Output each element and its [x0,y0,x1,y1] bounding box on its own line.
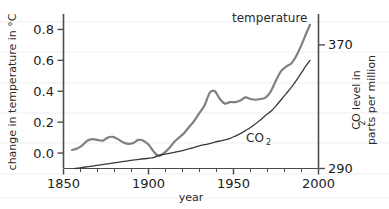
right-axis-title-line2: parts per million [365,55,378,145]
climate-chart: 0.00.20.40.60.8 290370 1850190019502000 … [0,0,389,209]
co2-series-label-subscript: 2 [266,138,271,147]
x-tick-label: 1850 [47,176,80,191]
left-tick-label: 0.4 [33,84,54,99]
co2-series-label: CO [246,131,264,145]
right-tick-label: 290 [328,161,353,176]
temperature-series-label: temperature [232,11,307,25]
left-tick-label: 0.6 [33,53,54,68]
left-tick-label: 0.8 [33,22,54,37]
left-tick-label: 0.2 [33,115,54,130]
x-axis-title: year [179,191,204,204]
left-axis-title: change in temperature in °C [6,13,19,170]
right-tick-label: 370 [328,37,353,52]
left-tick-label: 0.0 [33,146,54,161]
x-tick-label: 1900 [132,176,165,191]
x-tick-label: 2000 [302,176,335,191]
x-tick-label: 1950 [217,176,250,191]
chart-canvas: 0.00.20.40.60.8 290370 1850190019502000 … [0,0,389,209]
